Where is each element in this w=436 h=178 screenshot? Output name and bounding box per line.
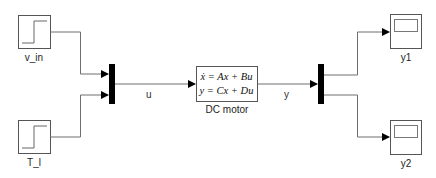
signal-line-v-in[interactable] bbox=[50, 32, 108, 74]
block-label-y1: y1 bbox=[386, 52, 426, 63]
state-equation: ẋ = Ax + Bu bbox=[201, 70, 253, 84]
scope-screen-icon bbox=[395, 20, 418, 32]
output-equation: y = Cx + Du bbox=[200, 84, 254, 98]
step-block-t-l[interactable] bbox=[19, 121, 51, 154]
signal-line-y1[interactable] bbox=[324, 32, 389, 75]
diagram-canvas: ẋ = Ax + Bu y = Cx + Du v_in T_l DC moto… bbox=[0, 0, 436, 178]
block-label-y2: y2 bbox=[386, 158, 426, 169]
scope-block-y2[interactable] bbox=[391, 121, 422, 155]
signal-label-u: u bbox=[146, 89, 152, 100]
block-label-dc-motor: DC motor bbox=[196, 104, 258, 115]
scope-block-y1[interactable] bbox=[391, 15, 422, 49]
block-label-t-l: T_l bbox=[14, 157, 54, 168]
scope-screen-icon bbox=[395, 126, 418, 138]
block-label-v-in: v_in bbox=[14, 52, 54, 63]
signal-line-y2[interactable] bbox=[324, 95, 389, 137]
signal-line-t-l[interactable] bbox=[50, 95, 108, 137]
demux-block[interactable] bbox=[318, 64, 324, 104]
mux-block[interactable] bbox=[109, 64, 115, 104]
step-block-v-in[interactable] bbox=[19, 16, 51, 49]
state-space-equations: ẋ = Ax + Bu y = Cx + Du bbox=[196, 66, 257, 101]
signal-label-y: y bbox=[284, 89, 289, 100]
